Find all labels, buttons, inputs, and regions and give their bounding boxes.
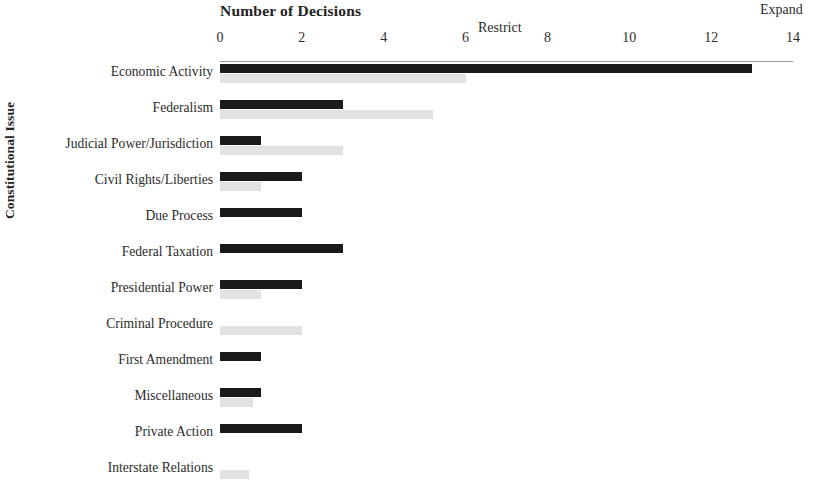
bar-expand bbox=[220, 208, 302, 217]
bar-expand bbox=[220, 424, 302, 433]
bar-restrict bbox=[220, 74, 466, 83]
x-tick-0: 0 bbox=[217, 30, 224, 46]
chart-row: Presidential Power bbox=[0, 278, 818, 314]
bar-expand bbox=[220, 280, 302, 289]
category-label: Economic Activity bbox=[0, 63, 213, 80]
bar-expand bbox=[220, 352, 261, 361]
plot-area: Economic ActivityFederalismJudicial Powe… bbox=[0, 62, 818, 495]
bar-restrict bbox=[220, 146, 343, 155]
x-tick-14: 14 bbox=[786, 30, 800, 46]
category-label: Due Process bbox=[0, 207, 213, 224]
x-tick-2: 2 bbox=[298, 30, 305, 46]
chart-title: Number of Decisions bbox=[220, 2, 361, 20]
category-label: Civil Rights/Liberties bbox=[0, 171, 213, 188]
x-tick-4: 4 bbox=[380, 30, 387, 46]
bar-restrict bbox=[220, 470, 249, 479]
chart-row: Economic Activity bbox=[0, 62, 818, 98]
category-label: Miscellaneous bbox=[0, 387, 213, 404]
chart-row: Federalism bbox=[0, 98, 818, 134]
chart-row: First Amendment bbox=[0, 350, 818, 386]
chart-row: Interstate Relations bbox=[0, 458, 818, 494]
x-tick-6: 6 bbox=[462, 30, 469, 46]
category-label: Federal Taxation bbox=[0, 243, 213, 260]
bar-chart: Number of Decisions Constitutional Issue… bbox=[0, 0, 818, 495]
category-label: Criminal Procedure bbox=[0, 315, 213, 332]
chart-row: Criminal Procedure bbox=[0, 314, 818, 350]
bar-expand bbox=[220, 388, 261, 397]
bar-restrict bbox=[220, 182, 261, 191]
bar-expand bbox=[220, 100, 343, 109]
bar-restrict bbox=[220, 110, 433, 119]
bar-restrict bbox=[220, 326, 302, 335]
chart-row: Federal Taxation bbox=[0, 242, 818, 278]
chart-row: Miscellaneous bbox=[0, 386, 818, 422]
bar-expand bbox=[220, 172, 302, 181]
x-tick-12: 12 bbox=[704, 30, 718, 46]
bar-expand bbox=[220, 64, 752, 73]
x-tick-10: 10 bbox=[622, 30, 636, 46]
bar-expand bbox=[220, 136, 261, 145]
bar-expand bbox=[220, 244, 343, 253]
category-label: Federalism bbox=[0, 99, 213, 116]
chart-row: Due Process bbox=[0, 206, 818, 242]
bar-restrict bbox=[220, 290, 261, 299]
category-label: Judicial Power/Jurisdiction bbox=[0, 135, 213, 152]
category-label: Interstate Relations bbox=[0, 459, 213, 476]
chart-row: Judicial Power/Jurisdiction bbox=[0, 134, 818, 170]
chart-row: Private Action bbox=[0, 422, 818, 458]
category-label: Presidential Power bbox=[0, 279, 213, 296]
bar-restrict bbox=[220, 398, 253, 407]
category-label: Private Action bbox=[0, 423, 213, 440]
series-label-restrict: Restrict bbox=[478, 20, 522, 36]
series-label-expand: Expand bbox=[760, 2, 803, 18]
category-label: First Amendment bbox=[0, 351, 213, 368]
x-tick-8: 8 bbox=[544, 30, 551, 46]
chart-row: Civil Rights/Liberties bbox=[0, 170, 818, 206]
